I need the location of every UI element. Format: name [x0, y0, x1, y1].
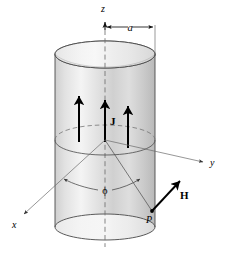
figure-container: z a J x: [0, 0, 225, 254]
h-vector-arrow: [152, 181, 180, 211]
cylinder-field-diagram: z a J x: [0, 0, 225, 254]
y-axis-label: y: [209, 157, 215, 168]
radius-dimension-label: a: [127, 22, 132, 33]
point-p-label: P: [145, 214, 152, 225]
field-vector-label: H: [180, 189, 189, 201]
field-vector-h: H: [152, 181, 189, 211]
current-density-label: J: [110, 115, 116, 127]
z-axis-label: z: [100, 3, 105, 14]
x-axis-label: x: [11, 219, 17, 230]
phi-angle-label: ϕ: [102, 185, 107, 196]
